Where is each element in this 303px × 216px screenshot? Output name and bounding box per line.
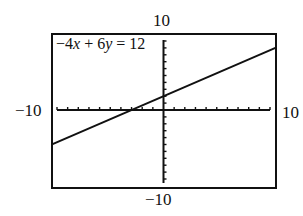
graph-plot (0, 0, 303, 216)
eq-part: + 6 (80, 35, 105, 52)
xmax-label: 10 (282, 104, 299, 121)
ymin-label: −10 (145, 191, 172, 208)
eq-part: = 12 (112, 35, 145, 52)
xmin-label: −10 (15, 102, 42, 119)
ymax-label: 10 (153, 12, 170, 29)
eq-part: −4 (56, 35, 73, 52)
equation-label: −4x + 6y = 12 (56, 36, 145, 52)
